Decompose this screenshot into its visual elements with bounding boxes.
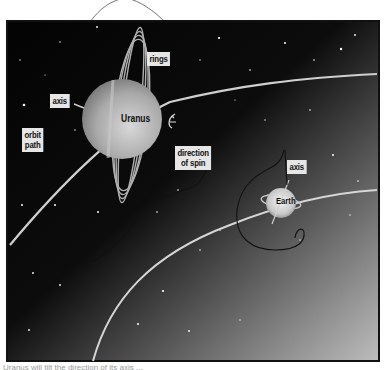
diagram-canvas [0, 0, 384, 370]
uranus-axis-label: axis [50, 94, 69, 108]
earth-axis-label: axis [287, 160, 306, 174]
uranus-label: Uranus [121, 113, 150, 124]
space-background [7, 21, 379, 361]
figure-caption: Uranus will tilt the direction of its ax… [3, 363, 143, 370]
direction-label-line2: of spin [177, 158, 208, 168]
pen-arc-top [90, 0, 165, 22]
earth-label: Earth [276, 196, 296, 206]
direction-of-spin-label: direction of spin [175, 146, 211, 170]
rings-label: rings [147, 52, 170, 66]
orbit-path-label: orbit path [22, 128, 43, 152]
orbit-path-label-line2: path [24, 140, 40, 150]
